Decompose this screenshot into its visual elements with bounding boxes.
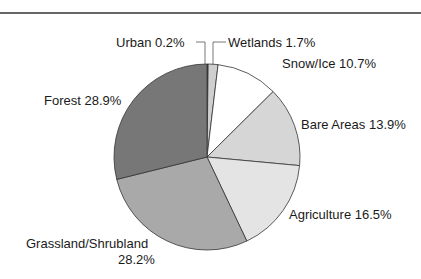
label-grassland-line1: Grassland/Shrubland bbox=[26, 236, 148, 251]
leader-line-urban bbox=[196, 42, 205, 65]
label-grassland-line2: 28.2% bbox=[118, 252, 155, 267]
label-snow-ice: Snow/Ice 10.7% bbox=[282, 56, 376, 71]
label-agriculture: Agriculture 16.5% bbox=[289, 207, 392, 222]
leader-line-wetlands bbox=[213, 42, 226, 65]
label-bare-areas: Bare Areas 13.9% bbox=[301, 117, 406, 132]
label-wetlands: Wetlands 1.7% bbox=[228, 35, 315, 50]
label-forest: Forest 28.9% bbox=[44, 93, 121, 108]
label-urban: Urban 0.2% bbox=[116, 35, 185, 50]
